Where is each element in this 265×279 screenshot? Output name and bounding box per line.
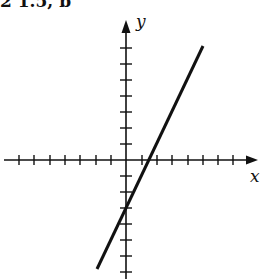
y-axis-arrow-icon <box>122 20 131 33</box>
plotted-line <box>97 46 203 269</box>
x-axis-arrow-icon <box>246 156 258 165</box>
coordinate-plane: y x <box>0 0 265 279</box>
y-axis-label: y <box>135 11 146 31</box>
x-axis-label: x <box>250 166 260 186</box>
